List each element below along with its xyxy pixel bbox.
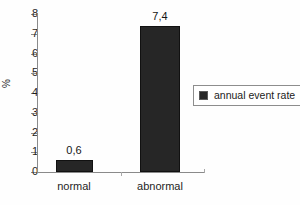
y-axis-tick-label: 5 bbox=[12, 67, 38, 78]
bar-group: 0,6 bbox=[56, 14, 93, 172]
y-axis-tick: 8 bbox=[0, 14, 38, 15]
y-axis-line bbox=[37, 13, 38, 173]
bar-value-label: 7,4 bbox=[152, 11, 167, 22]
y-axis-tick: 0 bbox=[0, 172, 38, 173]
y-axis-tick-label: 0 bbox=[12, 166, 38, 177]
y-axis-tick: 5 bbox=[0, 73, 38, 74]
legend-swatch-icon bbox=[199, 91, 208, 100]
bar-abnormal bbox=[140, 26, 180, 172]
y-axis-tick-label: 7 bbox=[12, 28, 38, 39]
bar-group: 7,4 bbox=[140, 14, 180, 172]
chart-legend: annual event rate bbox=[193, 85, 300, 106]
x-axis-category-label: normal bbox=[29, 181, 119, 192]
x-axis-category-label: abnormal bbox=[115, 181, 205, 192]
y-axis-tick-label: 2 bbox=[12, 127, 38, 138]
y-axis-tick-label: 4 bbox=[12, 87, 38, 98]
y-axis-tick: 4 bbox=[0, 93, 38, 94]
x-axis-end-tick bbox=[204, 169, 205, 173]
y-axis-tick: 6 bbox=[0, 54, 38, 55]
y-axis-title: % bbox=[2, 79, 12, 88]
y-axis-tick-label: 1 bbox=[12, 146, 38, 157]
bar-normal bbox=[56, 160, 93, 172]
y-axis-tick-label: 3 bbox=[12, 107, 38, 118]
y-axis-tick: 7 bbox=[0, 34, 38, 35]
x-axis-minor-tick bbox=[121, 172, 122, 176]
y-axis-tick-label: 8 bbox=[12, 8, 38, 19]
y-axis-tick: 1 bbox=[0, 152, 38, 153]
bar-value-label: 0,6 bbox=[66, 145, 81, 156]
y-axis-tick-label: 6 bbox=[12, 48, 38, 59]
bar-chart-figure: % 012345678 0,67,4 annual event rate nor… bbox=[0, 0, 300, 205]
y-axis-tick: 2 bbox=[0, 133, 38, 134]
legend-entry-label: annual event rate bbox=[214, 90, 295, 101]
y-axis-tick: 3 bbox=[0, 113, 38, 114]
